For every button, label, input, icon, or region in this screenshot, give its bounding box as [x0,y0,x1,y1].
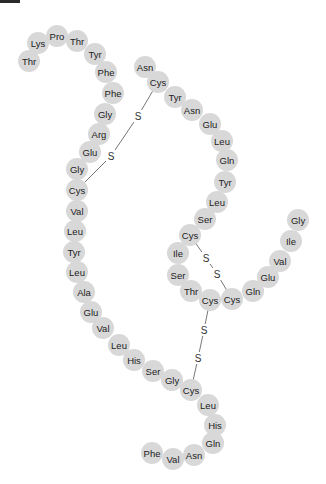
residue: Asn [134,56,156,78]
residue-label: Ser [198,214,213,225]
residue: Thr [18,50,40,72]
residue-label: Tyr [88,49,101,60]
residue: Cys [199,289,221,311]
residue: Glu [199,113,221,135]
residue-label: Cys [69,185,86,196]
residue-label: Asn [137,62,153,73]
residue-label: Asn [186,450,202,461]
residue-label: Cys [224,294,241,305]
residue-label: Tyr [218,177,231,188]
residue: Gly [94,103,116,125]
bond-line [191,300,210,390]
residue-label: His [208,420,222,431]
residue: Tyr [63,241,85,263]
residue: Tyr [214,171,236,193]
residue: Leu [64,220,86,242]
residue-label: Gln [220,155,235,166]
residue: Gly [287,209,309,231]
residue: Arg [88,123,110,145]
residue: Gln [216,149,238,171]
residue: Ile [280,230,302,252]
residue: Cys [180,379,202,401]
residue-label: Glu [84,307,99,318]
chain-b: PheValAsnGlnHisLeuCysGlySerHisLeuValGluA… [18,25,226,470]
residue: Val [66,200,88,222]
residue-label: Thr [22,56,36,67]
residue-label: Ser [171,270,186,281]
residue-label: Leu [67,226,83,237]
residue-label: Leu [111,340,127,351]
residue-label: Phe [144,448,161,459]
residue: Ile [167,242,189,264]
insulin-structure-diagram: SSSSSS PheValAsnGlnHisLeuCysGlySerHisLeu… [0,0,326,484]
residue-label: Cys [182,230,199,241]
residue: Phe [141,442,163,464]
residue-label: Leu [200,400,216,411]
residue-label: Cys [183,385,200,396]
residue: Ser [142,360,164,382]
residue: Ser [167,264,189,286]
sulfur-label: S [135,111,142,122]
residue: Val [162,448,184,470]
residue: Asn [183,444,205,466]
residue-label: Thr [70,36,84,47]
residue: Cys [66,179,88,201]
residue-label: Ala [77,287,91,298]
residue: Gly [161,369,183,391]
residue: Gln [242,280,264,302]
residue-label: Gly [98,109,113,120]
sulfur-label: S [108,151,115,162]
residue: His [204,414,226,436]
residue-label: Thr [184,286,198,297]
residue-label: Arg [92,129,107,140]
residue: Leu [108,334,130,356]
residue-label: Glu [261,272,276,283]
residue-label: Leu [214,136,230,147]
residue: Thr [66,30,88,52]
residue-label: Ile [286,236,296,247]
residue-label: Gln [206,438,221,449]
residue: Tyr [164,86,186,108]
residue-label: Phe [98,67,115,78]
residue: Leu [197,394,219,416]
residue-label: Cys [202,295,219,306]
residue-label: Val [70,206,83,217]
residue-label: Leu [69,267,85,278]
residue: Tyr [84,43,106,65]
residue: Ala [73,281,95,303]
residue-label: Gly [291,215,306,226]
residue-label: Gly [165,375,180,386]
residue: Cys [221,288,243,310]
residue-label: Val [273,256,286,267]
sulfur-label: S [195,353,202,364]
residue-label: Val [166,454,179,465]
sulfur-label: S [214,269,221,280]
residue-label: Ser [146,366,161,377]
residue-label: Ile [173,248,183,259]
residue-label: Pro [50,31,65,42]
sulfur-label: S [203,253,210,264]
residue-label: Tyr [168,92,181,103]
residue-label: Leu [209,197,225,208]
residue-label: Tyr [67,247,80,258]
residue-label: Lys [31,38,46,49]
residue-label: Glu [83,147,98,158]
sulfur-label: S [201,325,208,336]
residue: Phe [102,82,124,104]
residue: Glu [80,301,102,323]
residue-label: Cys [150,77,167,88]
residue-label: Phe [105,88,122,99]
residue: Leu [66,261,88,283]
residue-label: Gly [70,164,85,175]
residue-label: His [127,355,141,366]
residue: Pro [46,25,68,47]
residue-label: Glu [203,119,218,130]
residue-label: Asn [184,105,200,116]
residue: Leu [206,191,228,213]
residue-label: Val [96,323,109,334]
residue-label: Gln [246,286,261,297]
residue: Cys [179,224,201,246]
disulfide-bond: SS [191,300,210,390]
